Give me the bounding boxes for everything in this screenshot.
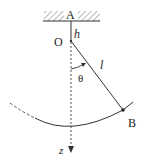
label-l: l <box>100 58 104 72</box>
pendulum-diagram: A h O l θ B z <box>0 0 145 161</box>
arc-extension <box>123 102 133 110</box>
swing-arc-dashed <box>10 103 35 118</box>
label-A: A <box>66 8 75 22</box>
swing-arc-solid <box>35 110 123 126</box>
pivot-point-O <box>70 40 72 42</box>
label-h: h <box>74 27 80 41</box>
label-z: z <box>58 144 64 156</box>
label-B: B <box>128 116 136 130</box>
label-O: O <box>54 35 63 49</box>
z-axis-arrow-icon <box>68 146 74 153</box>
label-theta: θ <box>78 72 83 84</box>
bob-B <box>121 108 125 112</box>
